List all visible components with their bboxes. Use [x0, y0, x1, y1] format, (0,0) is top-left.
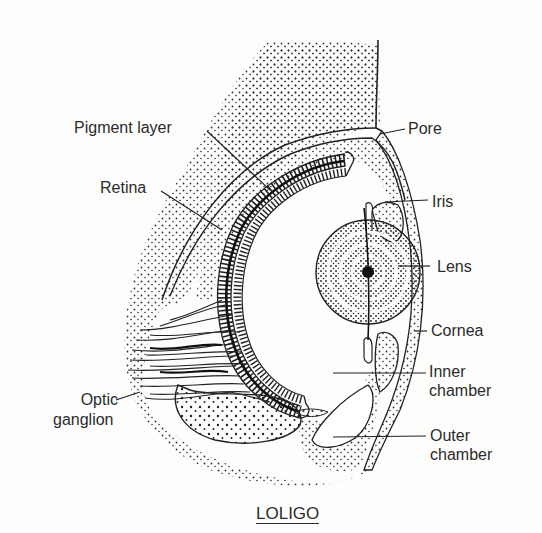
- label-pore: Pore: [408, 119, 442, 138]
- label-iris: Iris: [432, 192, 453, 211]
- label-ganglion: ganglion: [53, 410, 114, 429]
- label-cornea: Cornea: [431, 321, 483, 340]
- label-optic-ganglion: Optic: [62, 390, 118, 409]
- label-inner-chamber: Inner chamber: [429, 362, 491, 400]
- label-lens: Lens: [437, 257, 472, 276]
- label-retina: Retina: [100, 178, 146, 197]
- label-pigment-layer: Pigment layer: [74, 118, 172, 137]
- diagram-title: LOLIGO: [256, 505, 319, 524]
- label-optic-line1: Optic: [62, 390, 118, 409]
- diagram-canvas: Pigment layer Retina Pore Iris Lens Corn…: [0, 0, 542, 533]
- label-outer-line2: chamber: [430, 445, 492, 464]
- lens: [316, 208, 420, 340]
- label-outer-line1: Outer: [430, 426, 492, 445]
- label-outer-chamber: Outer chamber: [430, 426, 492, 464]
- label-inner-line1: Inner: [429, 362, 491, 381]
- label-inner-line2: chamber: [429, 381, 491, 400]
